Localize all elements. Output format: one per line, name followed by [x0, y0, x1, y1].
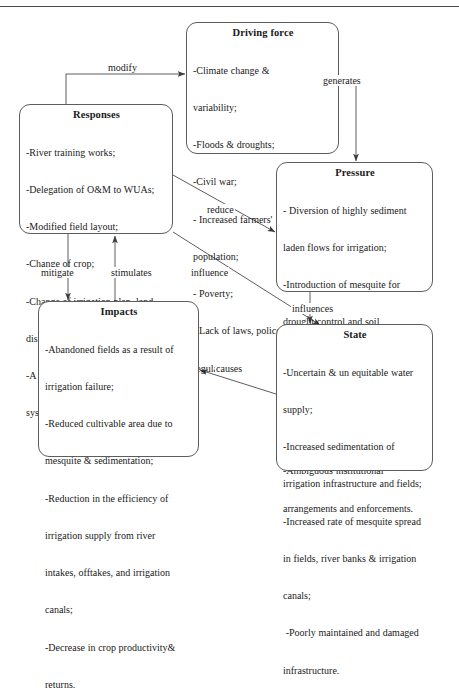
edge-label-stimulates: stimulates — [110, 267, 153, 278]
node-state-title: State — [283, 328, 427, 341]
edge-generates-line — [339, 84, 356, 161]
list-item: infrastructure. — [283, 665, 427, 677]
list-item: -Abandoned fields as a result of — [45, 344, 193, 356]
list-item: variability; — [193, 102, 333, 114]
edge-modify-line — [66, 74, 185, 104]
node-responses-title: Responses — [26, 108, 167, 121]
node-pressure-title: Pressure — [283, 166, 427, 179]
list-item: irrigation failure; — [45, 381, 193, 393]
edge-label-modify: modify — [107, 62, 138, 73]
list-item: returns. — [45, 679, 193, 691]
list-item: canals; — [45, 604, 193, 616]
list-item: -Uncertain & un equitable water — [283, 367, 427, 379]
edge-label-causes: causes — [215, 363, 243, 374]
node-impacts-title: Impacts — [45, 305, 193, 318]
node-state-items: -Uncertain & un equitable water supply; … — [283, 342, 427, 692]
node-impacts-items: -Abandoned fields as a result of irrigat… — [45, 319, 193, 692]
list-item: - Diversion of highly sediment — [283, 205, 427, 217]
list-item: in fields, river banks & irrigation — [283, 553, 427, 565]
node-impacts[interactable]: Impacts -Abandoned fields as a result of… — [38, 301, 199, 457]
list-item: irrigation supply from river — [45, 530, 193, 542]
list-item: -Reduced cultivable area due to — [45, 418, 193, 430]
list-item: laden flows for irrigation; — [283, 242, 427, 254]
edge-label-reduce: reduce — [206, 204, 235, 215]
edge-label-influences: influences — [291, 303, 334, 314]
node-pressure[interactable]: Pressure - Diversion of highly sediment … — [276, 162, 433, 292]
list-item: irrigation infrastructure and fields; — [283, 478, 427, 490]
node-driving-force-title: Driving force — [193, 26, 333, 39]
list-item: mesquite & sedimentation; — [45, 455, 193, 467]
list-item: -Introduction of mesquite for — [283, 279, 427, 291]
edge-label-generates: generates — [322, 75, 362, 86]
list-item: -Reduction in the efficiency of — [45, 493, 193, 505]
edge-label-mitigate: mitigate — [40, 267, 75, 278]
list-item: canals; — [283, 590, 427, 602]
list-item: -Floods & droughts; — [193, 139, 333, 151]
list-item: intakes, offtakes, and irrigation — [45, 567, 193, 579]
list-item: -Poorly maintained and damaged — [283, 627, 427, 639]
node-state[interactable]: State -Uncertain & un equitable water su… — [276, 324, 433, 471]
list-item: supply; — [283, 404, 427, 416]
list-item: -Decrease in crop productivity& — [45, 642, 193, 654]
list-item: -Modified field layout; — [26, 221, 167, 233]
list-item: -River training works; — [26, 147, 167, 159]
list-item: -Climate change & — [193, 65, 333, 77]
list-item: -Increased sedimentation of — [283, 441, 427, 453]
node-driving-force[interactable]: Driving force -Climate change & variabil… — [186, 22, 339, 154]
node-responses[interactable]: Responses -River training works; -Delega… — [19, 104, 173, 234]
list-item: -Delegation of O&M to WUAs; — [26, 184, 167, 196]
edge-label-influence: influence — [190, 267, 229, 278]
list-item: -Increased rate of mesquite spread — [283, 516, 427, 528]
